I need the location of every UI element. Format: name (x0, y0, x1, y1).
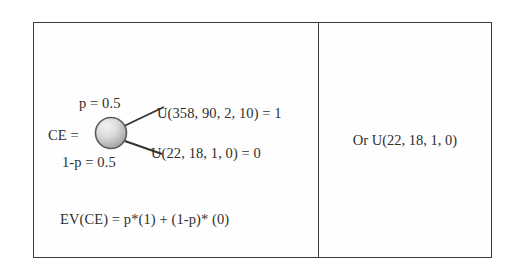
alternative-utility-text: Or U(22, 18, 1, 0) (353, 132, 457, 149)
outcome-label-bottom: U(22, 18, 1, 0) = 0 (151, 145, 261, 162)
outcome-label-top: U(358, 90, 2, 10) = 1 (157, 105, 282, 122)
probability-label-top: p = 0.5 (79, 95, 121, 112)
comparison-table: CE = p = 0.5 U(358, 90, 2, 10) = 1 1-p =… (33, 22, 492, 258)
table-cell-alternative: Or U(22, 18, 1, 0) (319, 23, 491, 257)
table-cell-certainty-equivalent: CE = p = 0.5 U(358, 90, 2, 10) = 1 1-p =… (34, 23, 319, 257)
node-label-ce: CE = (48, 127, 79, 144)
expected-value-formula: EV(CE) = p*(1) + (1-p)* (0) (60, 211, 229, 228)
probability-label-bottom: 1-p = 0.5 (62, 154, 116, 171)
lottery-diagram: CE = p = 0.5 U(358, 90, 2, 10) = 1 1-p =… (34, 23, 318, 257)
chance-node-circle (96, 118, 127, 149)
